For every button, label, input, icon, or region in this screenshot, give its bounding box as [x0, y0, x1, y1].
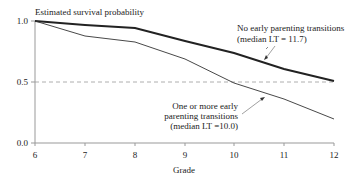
series-early-label-2: parenting transitions	[164, 111, 238, 121]
survival-chart: 1.0 0.5 0.0 6 7 8 9 10 11 12 Estimated s…	[0, 0, 352, 186]
y-tick-label: 0.5	[17, 77, 29, 87]
x-axis-title: Grade	[173, 165, 195, 175]
y-axis-title: Estimated survival probability	[35, 7, 144, 17]
series-no-early-label: No early parenting transitions	[237, 23, 345, 33]
y-tick-label: 1.0	[17, 16, 29, 26]
x-tick-label: 6	[33, 150, 38, 160]
x-tick-label: 8	[133, 150, 138, 160]
arrowhead-icon	[260, 97, 265, 101]
x-tick-label: 11	[280, 150, 289, 160]
series-early-median: (median LT =10.0)	[170, 121, 238, 131]
series-no-early-median: (median LT = 11.7)	[237, 34, 307, 44]
y-tick-label: 0.0	[17, 138, 29, 148]
x-tick-label: 12	[330, 150, 339, 160]
x-tick-label: 9	[183, 150, 188, 160]
annotation-arrow	[266, 47, 268, 49]
x-tick-label: 7	[83, 150, 88, 160]
x-tick-label: 10	[230, 150, 240, 160]
series-early-label-1: One or more early	[172, 101, 238, 111]
